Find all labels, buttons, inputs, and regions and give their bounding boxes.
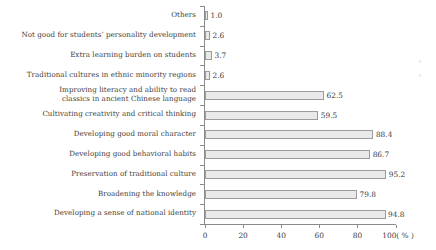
bar bbox=[205, 170, 386, 179]
scan-artifact-mark: • bbox=[418, 58, 422, 66]
category-label: Preservation of traditional culture bbox=[71, 170, 196, 178]
bar-value-label: 1.0 bbox=[211, 11, 223, 20]
y-axis-tick bbox=[200, 184, 204, 185]
y-axis-tick bbox=[200, 26, 204, 27]
x-axis-tick bbox=[243, 225, 244, 228]
x-axis-tick bbox=[357, 225, 358, 228]
x-axis-line bbox=[204, 224, 396, 225]
bar-value-label: 95.2 bbox=[389, 170, 405, 179]
y-axis-tick bbox=[200, 165, 204, 166]
y-axis-tick bbox=[200, 105, 204, 106]
bar-value-label: 88.4 bbox=[376, 130, 392, 139]
bar bbox=[205, 71, 210, 80]
category-label-line: Extra learning burden on students bbox=[70, 51, 196, 59]
y-axis-tick bbox=[200, 125, 204, 126]
bar bbox=[205, 150, 370, 159]
category-label-line: classics in ancient Chinese language bbox=[0, 95, 196, 103]
category-label-line: Developing a sense of national identity bbox=[54, 209, 196, 217]
category-label: Improving literacy and ability to readcl… bbox=[0, 86, 196, 103]
category-label-line: Traditional cultures in ethnic minority … bbox=[27, 71, 196, 79]
category-label: Developing a sense of national identity bbox=[54, 209, 196, 217]
category-label: Extra learning burden on students bbox=[70, 51, 196, 59]
category-label-line: Cultivating creativity and critical thin… bbox=[42, 110, 196, 118]
x-axis-tick bbox=[319, 225, 320, 228]
plot-area: Others1.0Not good for students’ personal… bbox=[0, 0, 436, 250]
category-label-line: Broadening the knowledge bbox=[98, 190, 196, 198]
bar-value-label: 3.7 bbox=[215, 51, 227, 60]
y-axis-tick bbox=[200, 85, 204, 86]
x-axis-tick bbox=[205, 225, 206, 228]
category-label: Developing good moral character bbox=[74, 130, 196, 138]
bar bbox=[205, 130, 373, 139]
category-label: Developing good behavioral habits bbox=[69, 150, 196, 158]
bar-value-label: 94.8 bbox=[388, 210, 404, 219]
category-label-line: Preservation of traditional culture bbox=[71, 170, 196, 178]
bar-value-label: 62.5 bbox=[327, 91, 343, 100]
y-axis-tick bbox=[200, 46, 204, 47]
category-label-line: Developing good moral character bbox=[74, 130, 196, 138]
bar-value-label: 2.6 bbox=[212, 71, 224, 80]
x-axis-tick-label: 60 bbox=[315, 231, 324, 240]
category-label: Not good for students’ personality devel… bbox=[21, 31, 196, 39]
x-axis-tick-label: 80 bbox=[353, 231, 362, 240]
category-label-line: Not good for students’ personality devel… bbox=[21, 31, 196, 39]
bar-value-label: 59.5 bbox=[321, 111, 337, 120]
x-axis-tick-label: 0 bbox=[203, 231, 208, 240]
bar-value-label: 2.6 bbox=[212, 31, 224, 40]
category-label: Cultivating creativity and critical thin… bbox=[42, 110, 196, 118]
x-axis-tick bbox=[281, 225, 282, 228]
bar bbox=[205, 11, 208, 20]
y-axis-tick bbox=[200, 204, 204, 205]
bar bbox=[205, 111, 318, 120]
y-axis-tick bbox=[200, 145, 204, 146]
x-axis-tick bbox=[396, 225, 397, 228]
bar bbox=[205, 210, 386, 219]
x-axis-tick-label: 20 bbox=[238, 231, 247, 240]
bar-value-label: 86.7 bbox=[373, 150, 389, 159]
bar bbox=[205, 51, 212, 60]
bar-value-label: 79.8 bbox=[360, 190, 376, 199]
category-label: Traditional cultures in ethnic minority … bbox=[27, 71, 196, 79]
horizontal-bar-chart: Others1.0Not good for students’ personal… bbox=[0, 0, 436, 250]
y-axis-tick bbox=[200, 65, 204, 66]
category-label-line: Others bbox=[171, 11, 196, 19]
x-axis-tick-label: 100( % ) bbox=[382, 231, 414, 240]
category-label: Others bbox=[171, 11, 196, 19]
bar bbox=[205, 190, 357, 199]
category-label-line: Developing good behavioral habits bbox=[69, 150, 196, 158]
y-axis-tick bbox=[200, 224, 204, 225]
bar bbox=[205, 91, 324, 100]
scan-artifact-mark: • bbox=[418, 72, 422, 80]
y-axis-tick bbox=[200, 6, 204, 7]
category-label: Broadening the knowledge bbox=[98, 190, 196, 198]
bar bbox=[205, 31, 210, 40]
x-axis-tick-label: 40 bbox=[276, 231, 285, 240]
